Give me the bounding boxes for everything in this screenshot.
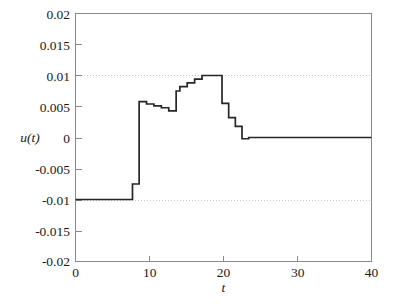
y-tick-label-0.005: 0.005 [40,100,71,115]
y-tick-label-neg0.01: -0.01 [42,193,70,208]
x-tick-label-10: 10 [143,265,157,280]
y-tick-label-neg0.015: -0.015 [35,224,70,239]
y-tick-label-0: 0 [63,131,70,146]
y-tick-label-0.02: 0.02 [46,7,70,22]
y-tick-label-0.015: 0.015 [40,38,71,53]
x-tick-label-40: 40 [365,265,379,280]
x-tick-labels: 0 10 20 30 40 [72,265,378,280]
y-tick-label-neg0.02: -0.02 [42,254,70,269]
x-tick-label-20: 20 [217,265,231,280]
y-axis-label: u(t) [20,130,40,145]
y-tick-labels: 0.02 0.015 0.01 0.005 0 -0.005 -0.01 -0.… [35,7,70,270]
y-tick-label-0.01: 0.01 [46,69,70,84]
line-chart: 0.02 0.015 0.01 0.005 0 -0.005 -0.01 -0.… [0,0,395,305]
x-tick-label-30: 30 [291,265,305,280]
y-tick-label-neg0.005: -0.005 [35,162,70,177]
figure-container: 0.02 0.015 0.01 0.005 0 -0.005 -0.01 -0.… [0,0,395,305]
x-axis-label: t [222,280,227,295]
x-tick-label-0: 0 [72,265,79,280]
